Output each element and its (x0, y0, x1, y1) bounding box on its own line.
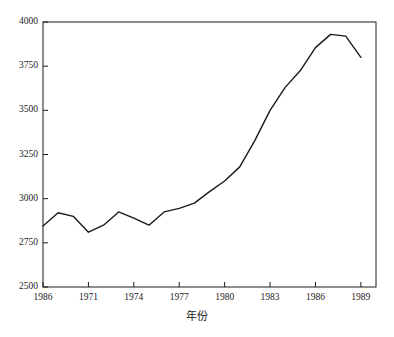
line-chart: 2500275030003250350037504000 19861971197… (0, 0, 394, 337)
x-tick-label: 1974 (114, 293, 154, 303)
y-axis-ticks (43, 22, 48, 287)
x-axis-title: 年份 (0, 311, 394, 322)
y-tick-label: 2750 (0, 238, 38, 248)
y-tick-label: 3000 (0, 194, 38, 204)
x-tick-label: 1986 (295, 293, 335, 303)
x-tick-label: 1983 (250, 293, 290, 303)
y-tick-label: 3500 (0, 105, 38, 115)
x-tick-label: 1977 (159, 293, 199, 303)
x-tick-label: 1971 (68, 293, 108, 303)
y-tick-label: 4000 (0, 17, 38, 27)
axes-frame (43, 22, 376, 287)
y-tick-label: 3750 (0, 61, 38, 71)
x-tick-label: 1989 (341, 293, 381, 303)
y-tick-label: 3250 (0, 150, 38, 160)
x-tick-label: 1980 (205, 293, 245, 303)
x-tick-label: 1986 (23, 293, 63, 303)
y-tick-label: 2500 (0, 282, 38, 292)
plot-area (0, 0, 394, 337)
x-axis-ticks (43, 282, 361, 287)
data-series-line (43, 34, 361, 232)
plot-frame (43, 22, 376, 287)
